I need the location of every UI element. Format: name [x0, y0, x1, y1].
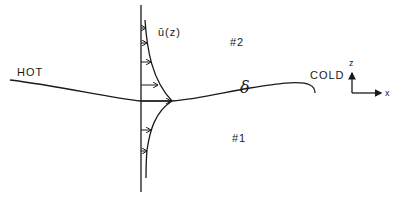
region-lower-label: #1 [232, 133, 246, 144]
velocity-profile-lower [146, 101, 172, 178]
axis-x-label: x [385, 89, 391, 98]
velocity-arrows [141, 28, 171, 151]
interface-line-hot [10, 80, 172, 101]
coordinate-axes [352, 73, 381, 93]
cold-label: COLD [310, 70, 345, 81]
axis-z-label: z [349, 59, 355, 68]
diagram-canvas: HOT COLD ū(z) #2 #1 δ z x [0, 0, 396, 199]
hot-label: HOT [17, 67, 43, 78]
interface-symbol: δ [240, 80, 251, 96]
region-upper-label: #2 [230, 37, 244, 48]
diagram-drawing [0, 0, 396, 199]
velocity-profile-label: ū(z) [158, 27, 181, 38]
